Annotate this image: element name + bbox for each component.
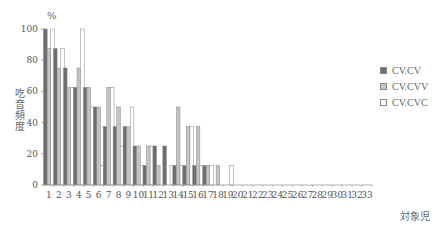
bar [113,127,117,186]
legend-label: CV.CVC [392,97,428,108]
bar [173,166,177,186]
bar [193,166,197,186]
bar [206,166,210,186]
bar [107,88,111,186]
x-tick-label: 5 [86,190,92,200]
bar [93,107,97,185]
bar [230,166,234,186]
legend-item-cv-cvc: CV.CVC [380,94,428,110]
bar [67,88,71,186]
bar [137,146,141,185]
y-tick-label: 60 [27,86,39,96]
legend-label: CV.CVV [392,81,428,92]
bar [183,166,187,186]
y-tick-label: 80 [27,55,39,65]
bar [103,127,107,186]
bar [210,166,214,186]
bar [123,127,127,186]
legend-item-cv-cv: CV.CV [380,62,428,78]
bar [83,88,87,186]
bar [73,88,77,186]
x-tick-label: 8 [116,190,122,200]
bar [143,166,147,186]
x-tick-label: 6 [96,190,102,200]
y-tick-label: 20 [27,149,39,159]
bar [133,146,137,185]
y-tick-label: 0 [32,180,38,190]
bar [203,166,207,186]
x-tick-label: 1 [46,190,52,200]
legend-swatch-icon [380,99,387,106]
y-tick-label: 100 [21,24,38,34]
bar [77,68,81,185]
bar [163,146,167,185]
bar [147,146,151,185]
bar [196,127,200,186]
bar [186,127,190,186]
bar [87,88,91,186]
x-tick-label: 2 [56,190,62,200]
bar [44,29,48,185]
bar [54,49,58,186]
y-axis-label: 吃音頻度 [12,88,24,132]
legend-swatch-icon [380,83,387,90]
x-tick-label: 9 [126,190,132,200]
y-axis: 020406080100 [21,24,44,190]
bar [47,49,51,186]
bar [127,127,131,186]
legend-label: CV.CV [392,65,421,76]
bar [63,68,67,185]
y-unit-label: % [47,10,57,21]
x-tick-label: 33 [361,190,373,200]
bar [117,107,121,185]
bar-chart: 020406080100 123456789101112131415161718… [0,0,445,226]
bar [216,166,220,186]
x-tick-label: 7 [106,190,112,200]
bar [97,107,101,185]
legend: CV.CV CV.CVV CV.CVC [380,62,428,110]
bar [153,146,157,185]
y-tick-label: 40 [27,118,39,128]
x-axis: 1234567891011121314151617181920212223242… [44,185,373,200]
legend-item-cv-cvv: CV.CVV [380,78,428,94]
bar [57,68,61,185]
bar [157,166,161,186]
bar [176,107,180,185]
x-tick-label: 3 [66,190,72,200]
x-axis-label: 対象児 [400,208,430,223]
x-tick-label: 4 [76,190,82,200]
bars [44,29,234,185]
legend-swatch-icon [380,67,387,74]
